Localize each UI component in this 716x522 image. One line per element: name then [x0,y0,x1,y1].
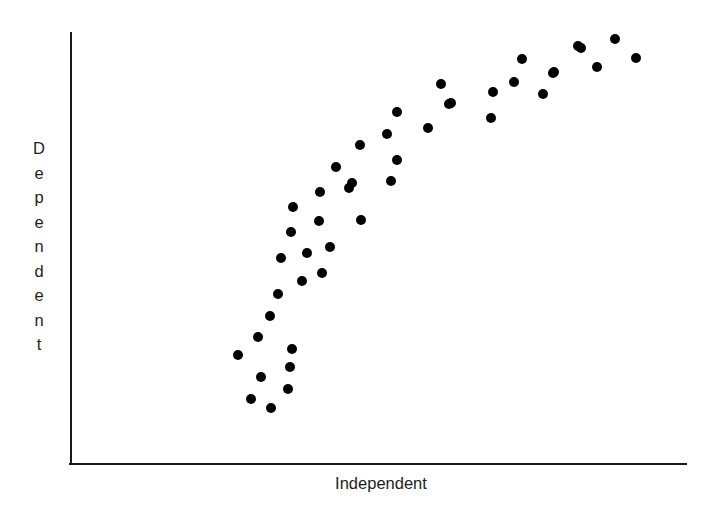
data-point [283,384,293,394]
data-point [436,79,446,89]
y-axis-label: D e p e n d e n t [24,136,54,357]
data-point [392,155,402,165]
plot-area: Independent D e p e n d e n t [0,0,716,522]
data-point [331,162,341,172]
y-axis-label-letter: d [34,259,43,284]
data-point [302,248,312,258]
x-axis-label: Independent [76,474,686,493]
y-axis-label-letter: e [34,210,43,235]
data-point [423,123,433,133]
data-point [549,67,559,77]
data-point [392,107,402,117]
data-point [355,140,365,150]
data-point [517,54,527,64]
data-point [576,43,586,53]
data-point [509,77,519,87]
data-point [233,350,243,360]
chart-canvas [0,0,716,522]
y-axis-label-letter: t [37,332,42,357]
data-point [325,242,335,252]
data-point [538,89,548,99]
data-point-group [233,34,641,413]
data-point [288,202,298,212]
data-point [276,253,286,263]
y-axis-label-letter: p [34,185,43,210]
data-point [286,227,296,237]
data-point [317,268,327,278]
data-point [486,113,496,123]
data-point [631,53,641,63]
data-point [266,403,276,413]
data-point [285,362,295,372]
y-axis-label-letter: e [34,283,43,308]
data-point [273,289,283,299]
data-point [256,372,266,382]
y-axis-label-letter: n [34,234,43,259]
y-axis-label-letter: e [34,161,43,186]
data-point [592,62,602,72]
data-point [287,344,297,354]
data-point [253,332,263,342]
data-point [246,394,256,404]
data-point [444,99,454,109]
data-point [347,178,357,188]
y-axis-label-letter: n [34,308,43,333]
data-point [386,176,396,186]
y-axis-label-letter: D [33,136,45,161]
data-point [488,87,498,97]
data-point [356,215,366,225]
scatter-plot-figure: Independent D e p e n d e n t [0,0,716,522]
data-point [265,311,275,321]
data-point [382,129,392,139]
data-point [297,276,307,286]
data-point [610,34,620,44]
data-point [314,216,324,226]
data-point [315,187,325,197]
